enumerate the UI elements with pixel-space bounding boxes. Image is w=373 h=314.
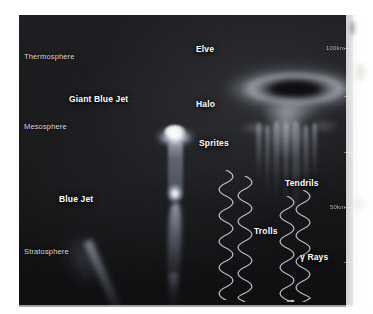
feature-label-elve: Elve — [196, 44, 214, 54]
scan-artifact-3 — [351, 22, 354, 34]
feature-label-halo: Halo — [196, 99, 215, 109]
scan-artifact-2 — [352, 198, 366, 210]
feature-label-giant-blue-jet: Giant Blue Jet — [69, 94, 128, 104]
figure-canvas: Thermosphere Mesosphere Stratosphere 100… — [0, 0, 373, 314]
gamma-ray-streamer-4 — [295, 190, 311, 302]
giant-blue-jet-knot — [165, 183, 185, 205]
bottom-margin — [0, 305, 373, 314]
blue-jet-glow — [77, 241, 147, 307]
left-margin — [0, 0, 19, 314]
altitude-marker-100km: 100km — [326, 45, 345, 51]
gamma-ray-streamer-3 — [279, 196, 295, 302]
giant-blue-jet-core — [164, 125, 186, 138]
feature-label-gamma-rays: γ Rays — [300, 252, 328, 262]
giant-blue-jet-foot — [169, 273, 178, 307]
feature-label-blue-jet: Blue Jet — [59, 194, 93, 204]
feature-label-sprites: Sprites — [199, 138, 229, 148]
gamma-ray-streamer-1 — [218, 170, 234, 300]
gamma-ray-streamer-2 — [237, 176, 253, 302]
feature-label-trolls: Trolls — [254, 226, 278, 236]
sprite-wing-right — [303, 117, 343, 135]
top-margin — [0, 0, 373, 15]
layer-label-stratosphere: Stratosphere — [24, 247, 69, 256]
scan-artifact-1 — [356, 64, 365, 80]
feature-label-tendrils: Tendrils — [285, 178, 319, 188]
layer-label-mesosphere: Mesosphere — [24, 122, 67, 131]
right-margin — [346, 15, 373, 307]
layer-label-thermosphere: Thermosphere — [24, 52, 75, 61]
